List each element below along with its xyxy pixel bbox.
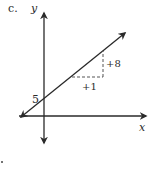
coordinate-graph: c. y x 5 +8 +1	[0, 0, 158, 192]
y-axis-label: y	[30, 2, 38, 15]
y-intercept-label: 5	[32, 93, 39, 106]
stray-dot	[1, 161, 3, 163]
rise-label: +8	[106, 58, 121, 69]
problem-label: c.	[8, 2, 18, 15]
run-label: +1	[82, 81, 97, 92]
x-axis-label: x	[139, 121, 146, 134]
